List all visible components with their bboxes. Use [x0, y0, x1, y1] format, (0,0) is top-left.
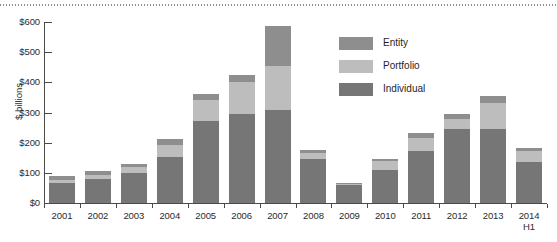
bar-group[interactable]	[229, 22, 255, 203]
bar-segment-portfolio[interactable]	[372, 161, 398, 170]
y-axis-tick-label: $300	[0, 108, 40, 118]
y-axis-tick-label: $400	[0, 77, 40, 87]
legend-swatch-individual	[339, 83, 373, 96]
x-axis-tick	[547, 204, 548, 208]
bar-group[interactable]	[516, 22, 542, 203]
legend-label: Individual	[383, 82, 425, 96]
bar-group[interactable]	[157, 22, 183, 203]
bar-segment-individual[interactable]	[372, 170, 398, 203]
bar-group[interactable]	[300, 22, 326, 203]
bar-segment-individual[interactable]	[408, 151, 434, 203]
x-axis-tick	[296, 204, 297, 208]
x-axis-tick	[511, 204, 512, 208]
stacked-bar[interactable]	[121, 164, 147, 203]
stacked-bar[interactable]	[85, 171, 111, 203]
bar-segment-entity[interactable]	[336, 183, 362, 184]
y-axis-tick	[44, 203, 52, 204]
y-axis-title: $ billions	[13, 62, 24, 142]
x-axis-tick	[475, 204, 476, 208]
bar-segment-entity[interactable]	[49, 176, 75, 180]
stacked-bar[interactable]	[444, 114, 470, 203]
stacked-bar[interactable]	[480, 96, 506, 203]
stacked-bar[interactable]	[372, 159, 398, 203]
legend-swatch-entity	[339, 37, 373, 50]
legend-label: Entity	[383, 36, 408, 50]
stacked-bar[interactable]	[300, 150, 326, 203]
bar-segment-entity[interactable]	[444, 114, 470, 119]
bar-group[interactable]	[408, 22, 434, 203]
stacked-bar[interactable]	[229, 75, 255, 203]
x-axis-tick	[367, 204, 368, 208]
plot-area	[44, 22, 547, 203]
y-axis-tick-label: $200	[0, 138, 40, 148]
bar-segment-portfolio[interactable]	[265, 66, 291, 110]
bar-segment-individual[interactable]	[229, 114, 255, 203]
bar-segment-portfolio[interactable]	[157, 145, 183, 157]
bar-segment-portfolio[interactable]	[193, 100, 219, 121]
y-axis-tick-label: $500	[0, 47, 40, 57]
bar-segment-individual[interactable]	[49, 183, 75, 203]
stacked-bar[interactable]	[157, 139, 183, 203]
bar-segment-individual[interactable]	[516, 162, 542, 203]
x-axis-tick	[224, 204, 225, 208]
bar-segment-portfolio[interactable]	[300, 153, 326, 160]
stacked-bar[interactable]	[336, 183, 362, 204]
bar-group[interactable]	[193, 22, 219, 203]
legend-label: Portfolio	[383, 59, 420, 73]
bar-group[interactable]	[85, 22, 111, 203]
stacked-bar[interactable]	[408, 133, 434, 203]
bar-segment-portfolio[interactable]	[229, 82, 255, 114]
bar-segment-entity[interactable]	[480, 96, 506, 103]
bar-segment-portfolio[interactable]	[480, 103, 506, 129]
x-axis-tick	[80, 204, 81, 208]
bar-segment-portfolio[interactable]	[85, 175, 111, 180]
bar-segment-entity[interactable]	[229, 75, 255, 83]
bar-segment-individual[interactable]	[480, 129, 506, 204]
bar-segment-individual[interactable]	[300, 159, 326, 203]
bar-segment-entity[interactable]	[193, 94, 219, 100]
bar-group[interactable]	[265, 22, 291, 203]
stacked-bar[interactable]	[193, 94, 219, 203]
x-axis-tick	[188, 204, 189, 208]
y-axis-tick-label: $600	[0, 17, 40, 27]
bar-segment-individual[interactable]	[85, 179, 111, 203]
bar-segment-individual[interactable]	[265, 110, 291, 203]
chart-container: $ billions $0$100$200$300$400$500$600 20…	[0, 0, 557, 242]
bar-segment-individual[interactable]	[336, 185, 362, 203]
bar-segment-entity[interactable]	[516, 148, 542, 151]
bar-segment-entity[interactable]	[121, 164, 147, 167]
stacked-bar[interactable]	[516, 148, 542, 203]
bar-group[interactable]	[49, 22, 75, 203]
x-axis-tick	[44, 204, 45, 208]
x-axis-tick	[260, 204, 261, 208]
bar-segment-portfolio[interactable]	[121, 167, 147, 173]
bar-segment-individual[interactable]	[444, 129, 470, 203]
bar-segment-portfolio[interactable]	[408, 138, 434, 152]
bar-segment-entity[interactable]	[157, 139, 183, 145]
x-axis-tick	[152, 204, 153, 208]
bar-segment-individual[interactable]	[157, 157, 183, 203]
bar-segment-entity[interactable]	[408, 133, 434, 138]
bar-segment-entity[interactable]	[265, 26, 291, 66]
x-axis-tick	[116, 204, 117, 208]
bar-segment-portfolio[interactable]	[516, 151, 542, 162]
y-axis-tick-label: $100	[0, 168, 40, 178]
stacked-bar[interactable]	[49, 176, 75, 203]
x-axis-tick-sublabel: H1	[506, 221, 552, 232]
bar-segment-portfolio[interactable]	[49, 180, 75, 184]
bar-group[interactable]	[444, 22, 470, 203]
legend-swatch-portfolio	[339, 60, 373, 73]
bar-segment-entity[interactable]	[372, 159, 398, 161]
x-axis-tick-label: 2014H1	[506, 210, 552, 232]
bar-group[interactable]	[121, 22, 147, 203]
bar-segment-portfolio[interactable]	[336, 183, 362, 185]
bar-group[interactable]	[480, 22, 506, 203]
bar-segment-entity[interactable]	[300, 150, 326, 153]
stacked-bar[interactable]	[265, 26, 291, 203]
y-axis-tick-label: $0	[0, 198, 40, 208]
x-axis-tick	[403, 204, 404, 208]
bar-segment-individual[interactable]	[121, 173, 147, 203]
bar-segment-entity[interactable]	[85, 171, 111, 175]
bar-segment-individual[interactable]	[193, 121, 219, 203]
bar-segment-portfolio[interactable]	[444, 119, 470, 130]
